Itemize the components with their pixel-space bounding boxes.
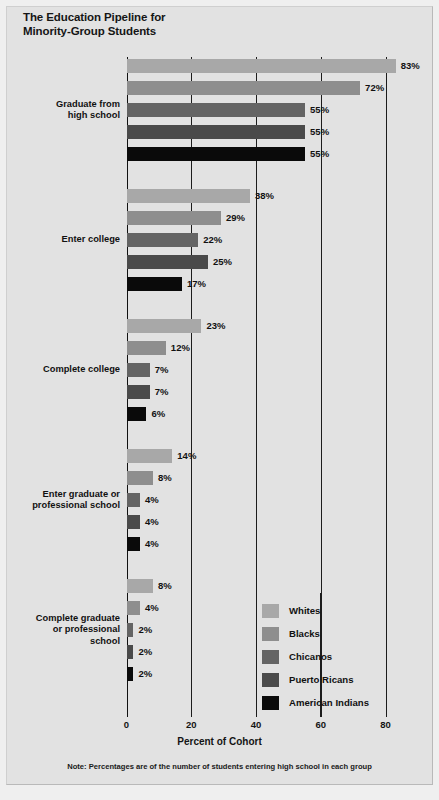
bar-value-label: 22% (203, 234, 222, 245)
x-tick-label-80: 80 (380, 719, 391, 730)
bar-whites-group-3: 23% (127, 319, 201, 333)
bar-american-indians-group-1: 55% (127, 147, 305, 161)
bar-fill (127, 319, 201, 333)
bar-fill (127, 233, 198, 247)
bar-american-indians-group-2: 17% (127, 277, 182, 291)
bar-fill (127, 515, 140, 529)
bar-value-label: 38% (255, 190, 274, 201)
bar-value-label: 7% (155, 386, 169, 397)
legend-swatch (262, 650, 279, 664)
category-label-1: Graduate fromhigh school (8, 99, 120, 122)
bar-value-label: 55% (310, 148, 329, 159)
bar-fill (127, 601, 140, 615)
bar-puerto-ricans-group-5: 2% (127, 645, 133, 659)
bar-value-label: 55% (310, 126, 329, 137)
bar-value-label: 2% (138, 646, 152, 657)
bar-blacks-group-4: 8% (127, 471, 153, 485)
bar-fill (127, 211, 221, 225)
bar-chicanos-group-5: 2% (127, 623, 133, 637)
bar-fill (127, 449, 172, 463)
bar-value-label: 72% (365, 82, 384, 93)
category-label-line: school (8, 636, 120, 648)
legend-label: American Indians (289, 697, 369, 708)
bar-fill (127, 407, 146, 421)
legend-label: Whites (289, 605, 320, 616)
bar-fill (127, 667, 133, 681)
bar-blacks-group-5: 4% (127, 601, 140, 615)
bar-puerto-ricans-group-1: 55% (127, 125, 305, 139)
bar-value-label: 25% (213, 256, 232, 267)
bar-blacks-group-3: 12% (127, 341, 166, 355)
bar-fill (127, 341, 166, 355)
bar-fill (127, 255, 208, 269)
bar-fill (127, 645, 133, 659)
category-label-line: Complete graduate (8, 613, 120, 625)
x-axis-title: Percent of Cohort (0, 736, 439, 747)
bar-whites-group-1: 83% (127, 59, 396, 73)
bar-value-label: 12% (171, 342, 190, 353)
legend-label: Puerto Ricans (289, 674, 354, 685)
bar-value-label: 7% (155, 364, 169, 375)
legend-swatch (262, 696, 279, 710)
bar-fill (127, 147, 305, 161)
bar-value-label: 2% (138, 668, 152, 679)
bar-whites-group-5: 8% (127, 579, 153, 593)
bar-chicanos-group-1: 55% (127, 103, 305, 117)
bar-chicanos-group-4: 4% (127, 493, 140, 507)
x-tick-label-60: 60 (315, 719, 326, 730)
bar-blacks-group-1: 72% (127, 81, 360, 95)
bar-value-label: 6% (151, 408, 165, 419)
bar-fill (127, 363, 150, 377)
legend-swatch (262, 627, 279, 641)
bar-value-label: 17% (187, 278, 206, 289)
bar-value-label: 55% (310, 104, 329, 115)
category-label-line: Graduate from (8, 99, 120, 111)
plot-area: 02040608083%72%55%55%55%Graduate fromhig… (0, 0, 439, 800)
bar-fill (127, 579, 153, 593)
bar-american-indians-group-3: 6% (127, 407, 146, 421)
gridline-80 (386, 57, 387, 717)
bar-fill (127, 471, 153, 485)
bar-fill (127, 277, 182, 291)
x-tick-label-0: 0 (124, 719, 129, 730)
category-label-3: Complete college (8, 364, 120, 376)
bar-whites-group-4: 14% (127, 449, 172, 463)
category-label-line: Enter college (8, 234, 120, 246)
bar-fill (127, 493, 140, 507)
bar-fill (127, 103, 305, 117)
legend-swatch (262, 673, 279, 687)
bar-value-label: 14% (177, 450, 196, 461)
bar-puerto-ricans-group-4: 4% (127, 515, 140, 529)
bar-value-label: 2% (138, 624, 152, 635)
bar-fill (127, 189, 250, 203)
category-label-line: or professional (8, 624, 120, 636)
bar-chicanos-group-2: 22% (127, 233, 198, 247)
legend-swatch (262, 604, 279, 618)
bar-fill (127, 81, 360, 95)
legend-label: Blacks (289, 628, 320, 639)
x-tick-label-20: 20 (186, 719, 197, 730)
bar-american-indians-group-4: 4% (127, 537, 140, 551)
category-label-line: Enter graduate or (8, 489, 120, 501)
chart-figure: The Education Pipeline for Minority-Grou… (0, 0, 439, 800)
bar-fill (127, 59, 396, 73)
bar-blacks-group-2: 29% (127, 211, 221, 225)
legend-label: Chicanos (289, 651, 332, 662)
bar-value-label: 4% (145, 602, 159, 613)
bar-value-label: 4% (145, 494, 159, 505)
bar-value-label: 8% (158, 580, 172, 591)
category-label-line: high school (8, 110, 120, 122)
bar-whites-group-2: 38% (127, 189, 250, 203)
bar-fill (127, 385, 150, 399)
bar-puerto-ricans-group-2: 25% (127, 255, 208, 269)
bar-value-label: 23% (206, 320, 225, 331)
category-label-2: Enter college (8, 234, 120, 246)
x-tick-label-40: 40 (251, 719, 262, 730)
bar-value-label: 4% (145, 516, 159, 527)
bar-value-label: 83% (401, 60, 420, 71)
chart-note: Note: Percentages are of the number of s… (0, 762, 439, 771)
bar-chicanos-group-3: 7% (127, 363, 150, 377)
bar-american-indians-group-5: 2% (127, 667, 133, 681)
bar-value-label: 4% (145, 538, 159, 549)
category-label-line: Complete college (8, 364, 120, 376)
